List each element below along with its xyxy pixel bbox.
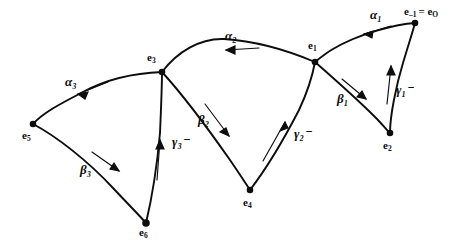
vertex-label-e-zero-base: = e [418, 5, 432, 17]
vertex-label-e6-sub: 6 [144, 231, 148, 240]
vertex-label-e6: e6 [139, 227, 148, 240]
vertex-dot-e-1 [412, 20, 419, 27]
arrow-alpha2 [226, 46, 259, 54]
arc-label-beta3: β₃ [80, 163, 91, 176]
vertex-label-e5: e5 [22, 130, 31, 143]
vertex-label-e4: e4 [243, 197, 252, 210]
vertex-label-e1-sub: 1 [313, 44, 317, 53]
arc-label-gamma3: γ₃⁻ [172, 135, 189, 148]
vertex-label-e4-sub: 4 [248, 201, 252, 210]
arc-alpha2 [162, 39, 315, 72]
arrow-alpha3 [78, 82, 108, 99]
vertex-label-e2: e2 [383, 140, 392, 153]
vertex-label-e-zero-sub: O [432, 10, 438, 19]
arc-beta1 [315, 62, 390, 133]
arc-label-alpha2: α₂ [225, 29, 237, 42]
arc-label-beta2: β₂ [198, 113, 209, 126]
arc-label-gamma1: γ₁⁻ [396, 83, 413, 96]
arc-alpha3 [33, 72, 162, 124]
vertex-label-e1: e1 [308, 40, 317, 53]
arc-label-gamma2: γ₂⁻ [294, 127, 311, 140]
vertex-dot-e2 [387, 130, 394, 137]
vertex-label-e3: e3 [147, 52, 156, 65]
arc-label-alpha1: α₁ [370, 8, 382, 21]
vertex-label-e-minus-1: e–1= eO [404, 6, 438, 19]
arc-label-alpha3: α₃ [65, 75, 77, 88]
arrow-gamma2 [263, 122, 288, 161]
vertex-dot-e1 [312, 59, 319, 66]
arrow-beta3 [92, 152, 119, 171]
vertex-dot-e3 [159, 69, 166, 76]
vertex-dot-e4 [247, 187, 254, 194]
vertex-label-e-minus-1-sub: –1 [409, 10, 417, 19]
vertex-dot-e5 [30, 121, 37, 128]
arc-alpha1 [315, 23, 415, 62]
arc-gamma1 [390, 23, 415, 133]
arc-label-beta1: β₁ [337, 92, 348, 105]
diagram-canvas: e–1= eO e1 e2 e3 e4 e5 e6 α₁ α₂ α₃ β₁ β₂… [0, 0, 473, 242]
arc-beta2 [162, 72, 250, 190]
vertex-label-e5-sub: 5 [27, 134, 31, 143]
vertex-label-e2-sub: 2 [388, 144, 392, 153]
vertex-label-e3-sub: 3 [152, 56, 156, 65]
